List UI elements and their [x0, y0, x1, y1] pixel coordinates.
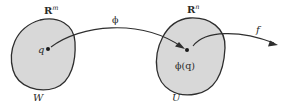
mapping-diagram: Rm Rn q ϕ(q) W U ϕ f [0, 0, 292, 105]
label-u: U [172, 92, 181, 103]
label-rn: Rn [187, 3, 200, 15]
label-q: q [38, 44, 44, 55]
label-f: f [255, 24, 262, 35]
label-phi: ϕ [112, 14, 119, 25]
point-q [46, 47, 50, 51]
region-u [156, 18, 225, 95]
label-w: W [33, 92, 44, 103]
point-phi-q [185, 48, 189, 52]
label-phi-q: ϕ(q) [175, 60, 195, 71]
label-rm: Rm [44, 4, 58, 16]
